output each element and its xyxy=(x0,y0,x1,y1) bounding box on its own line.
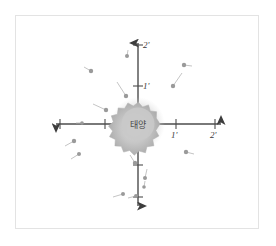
x-axis-label-1: 1' xyxy=(171,130,177,140)
comet-dot xyxy=(77,152,81,156)
x-axis-label-2: 2' xyxy=(210,130,216,140)
comet-dot xyxy=(142,185,146,189)
comet-dot xyxy=(89,69,93,73)
comet-dot xyxy=(80,121,84,125)
comet-dot xyxy=(143,176,147,180)
comet-dot xyxy=(104,108,108,112)
comet-dot xyxy=(72,139,76,143)
y-axis-label-1: 1' xyxy=(143,81,149,91)
sun-core xyxy=(122,108,155,141)
comet-dot xyxy=(134,194,138,198)
solar-system-plot xyxy=(0,0,276,246)
comet-dot xyxy=(133,161,137,165)
comet-dot xyxy=(125,54,129,58)
comet-dot xyxy=(171,84,175,88)
comet-dot xyxy=(124,94,128,98)
diagram-stage: 2' 1' 1' 2' 태양 xyxy=(0,0,276,246)
y-axis-label-2: 2' xyxy=(143,40,149,50)
comet-dot xyxy=(182,63,186,67)
sun-body xyxy=(109,97,166,155)
comet-tail xyxy=(117,82,126,96)
comet-dot xyxy=(184,150,188,154)
comet-dot xyxy=(121,192,125,196)
comet-tail xyxy=(173,73,182,86)
